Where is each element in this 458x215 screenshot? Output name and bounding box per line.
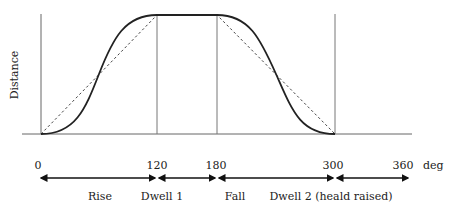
- linear-displacement-curve: [41, 15, 335, 134]
- y-axis-label: Distance: [8, 51, 21, 100]
- phase-label-fall: Fall: [225, 191, 245, 202]
- phase-label-rise: Rise: [88, 191, 112, 202]
- tick-0: 0: [35, 160, 42, 171]
- tick-180: 180: [206, 160, 227, 171]
- smooth-displacement-curve: [41, 15, 335, 134]
- tick-300: 300: [323, 160, 344, 171]
- phase-label-dwell2: Dwell 2 (heald raised): [269, 191, 392, 202]
- tick-360: 360: [393, 160, 414, 171]
- tick-120: 120: [147, 160, 168, 171]
- phase-label-dwell1: Dwell 1: [141, 191, 183, 202]
- cam-diagram: [0, 0, 458, 215]
- unit-label: deg: [423, 160, 444, 171]
